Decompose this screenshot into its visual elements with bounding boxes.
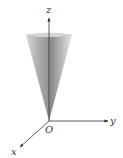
y-axis-label: y	[109, 115, 116, 126]
origin-label: O	[45, 124, 53, 135]
cone-diagram: z y x O	[0, 0, 123, 158]
x-axis-label: x	[11, 146, 17, 157]
z-axis-label: z	[45, 4, 52, 15]
